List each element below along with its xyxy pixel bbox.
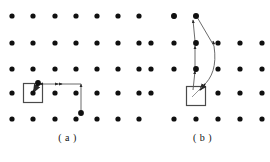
lattice-dot xyxy=(215,40,220,45)
lattice-dot xyxy=(9,40,14,45)
lattice-dot xyxy=(259,90,264,95)
lattice-dot xyxy=(136,90,141,95)
lattice-dot xyxy=(115,116,120,121)
lattice-dot xyxy=(171,116,176,121)
path-corner-dot xyxy=(35,80,41,86)
lattice-dot xyxy=(259,116,264,121)
lattice-dot xyxy=(215,116,220,121)
lattice-dot xyxy=(73,66,78,71)
path-start-dot xyxy=(193,13,199,19)
lattice-dot xyxy=(115,13,120,18)
lattice-dot xyxy=(148,90,153,95)
lattice-dot xyxy=(148,66,153,71)
lattice-dot xyxy=(215,66,220,71)
lattice-dot xyxy=(73,40,78,45)
path-waypoint-dot xyxy=(193,40,199,46)
lattice-dot xyxy=(136,116,141,121)
lattice-dot xyxy=(94,13,99,18)
lattice-dot xyxy=(30,13,35,18)
lattice-dot xyxy=(115,40,120,45)
lattice-dot xyxy=(30,40,35,45)
lattice-dot xyxy=(9,116,14,121)
lattice-dot xyxy=(9,66,14,71)
lattice-dot xyxy=(30,66,35,71)
path-target-dot xyxy=(30,90,35,95)
caption-panel-a: ( a ) xyxy=(0,132,135,143)
lattice-dot xyxy=(94,40,99,45)
lattice-dot xyxy=(94,90,99,95)
lattice-dot xyxy=(259,40,264,45)
lattice-dot xyxy=(136,40,141,45)
lattice-dot xyxy=(9,13,14,18)
lattice-dot xyxy=(115,90,120,95)
path-top-dot xyxy=(171,13,177,19)
lattice-dot xyxy=(237,90,242,95)
lattice-dot xyxy=(171,40,176,45)
lattice-dot xyxy=(52,13,57,18)
lattice-dot xyxy=(73,13,78,18)
lattice-dot xyxy=(148,40,153,45)
lattice-dot xyxy=(237,116,242,121)
lattice-dot xyxy=(237,40,242,45)
lattice-dot xyxy=(136,13,141,18)
lattice-dot xyxy=(73,90,78,95)
lattice-dot xyxy=(52,90,57,95)
lattice-dot xyxy=(115,66,120,71)
path-start-dot xyxy=(78,110,84,116)
lattice-dot xyxy=(237,66,242,71)
caption-panel-b: ( b ) xyxy=(135,132,270,143)
lattice-dot xyxy=(94,116,99,121)
lattice-dot xyxy=(9,90,14,95)
lattice-dot xyxy=(52,66,57,71)
lattice-dot xyxy=(215,90,220,95)
lattice-dot xyxy=(136,66,141,71)
lattice-dot xyxy=(30,116,35,121)
lattice-dot xyxy=(52,116,57,121)
lattice-dot xyxy=(52,40,57,45)
path-waypoint-dot xyxy=(193,66,199,72)
lattice-dot xyxy=(193,116,198,121)
lattice-dot xyxy=(171,66,176,71)
lattice-dot xyxy=(94,66,99,71)
lattice-dot xyxy=(259,66,264,71)
lattice-dot xyxy=(73,116,78,121)
